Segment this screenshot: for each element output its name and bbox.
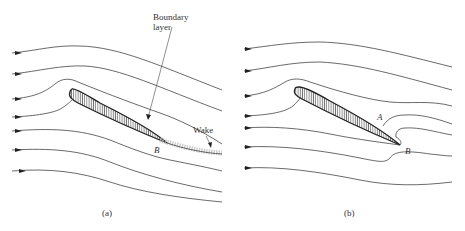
streamline: [12, 66, 222, 111]
streamline: [244, 42, 452, 67]
panel-b: [244, 42, 452, 185]
boundary-layer-label: Boundary layer: [153, 12, 189, 32]
airfoil: [294, 87, 400, 145]
streamline: [244, 127, 452, 145]
streamline: [12, 100, 72, 117]
streamline: [12, 149, 222, 192]
point-b-label-a: B: [154, 145, 160, 155]
wake-label: Wake: [193, 125, 213, 135]
streamline: [244, 62, 452, 90]
flow-arrow-icons: [15, 51, 26, 173]
airfoil-flow-figure: Boundary layer Wake B (a) A B (b): [0, 0, 465, 231]
streamline: [244, 168, 452, 185]
point-a-label: A: [377, 112, 383, 122]
panel-a: [12, 27, 222, 202]
streamline: [383, 115, 452, 126]
wake-region: [160, 140, 222, 153]
flow-arrow-icons: [245, 47, 252, 170]
airfoil: [69, 89, 167, 143]
streamline: [12, 46, 222, 90]
point-b-label-b: B: [405, 146, 411, 156]
streamline: [244, 147, 452, 162]
streamline: [244, 79, 452, 106]
streamline: [244, 98, 300, 116]
caption-b: (b): [344, 208, 355, 218]
caption-a: (a): [102, 208, 112, 218]
boundary-layer-pointer: [148, 27, 172, 118]
